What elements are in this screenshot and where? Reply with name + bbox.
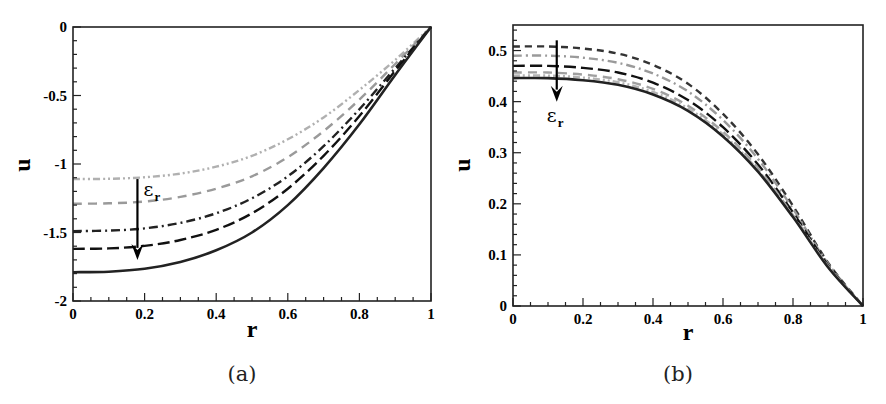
y-axis: -2-1.5-1-0.50: [43, 19, 81, 309]
line-curve-4: [73, 27, 431, 249]
y-tick-label: 0.1: [488, 247, 507, 263]
x-tick-label: 0.2: [574, 311, 593, 327]
chart-panel-b: 00.20.40.60.8100.10.20.30.40.5ru(b)εr: [449, 25, 867, 386]
x-tick-label: 1: [427, 306, 435, 322]
line-curve-1: [513, 46, 863, 306]
x-tick-label: 0.4: [644, 311, 663, 327]
line-curve-3: [73, 27, 431, 231]
x-tick-label: 0: [69, 306, 77, 322]
epsilon-arrow-annotation: εr: [547, 40, 564, 129]
y-tick-label: -2: [55, 293, 68, 309]
y-tick-label: 0: [60, 19, 68, 35]
y-tick-label: 0.5: [488, 43, 507, 59]
x-axis-title: r: [247, 316, 258, 342]
series-group: [73, 27, 431, 272]
x-tick-label: 0.8: [350, 306, 369, 322]
x-tick-label: 0.6: [714, 311, 733, 327]
y-tick-label: 0: [500, 298, 508, 314]
x-tick-label: 1: [859, 311, 867, 327]
panel-caption: (a): [228, 362, 257, 386]
x-tick-label: 0.8: [784, 311, 803, 327]
y-tick-label: 0.4: [488, 94, 507, 110]
series-group: [513, 46, 863, 306]
epsilon-r-subscript: r: [558, 115, 564, 130]
line-curve-4: [513, 72, 863, 306]
line-curve-2: [73, 27, 431, 204]
y-axis-title: u: [449, 158, 475, 171]
panel-caption: (b): [663, 362, 693, 386]
y-tick-label: 0.2: [488, 196, 507, 212]
y-tick-label: -1.5: [43, 225, 67, 241]
epsilon-r-label: ε: [547, 104, 557, 126]
x-tick-label: 0.4: [207, 306, 226, 322]
figure: 00.20.40.60.81-2-1.5-1-0.50ru(a)εr 00.20…: [0, 0, 886, 404]
x-axis-title: r: [683, 319, 694, 345]
chart-panel-a: 00.20.40.60.81-2-1.5-1-0.50ru(a)εr: [9, 19, 435, 386]
line-curve-5: [73, 27, 431, 272]
epsilon-r-label: ε: [143, 178, 153, 200]
y-tick-label: -1: [55, 156, 68, 172]
y-axis-title: u: [9, 158, 35, 171]
line-curve-6: [513, 78, 863, 306]
line-curve-2: [513, 56, 863, 306]
line-curve-3: [513, 66, 863, 306]
epsilon-r-subscript: r: [154, 189, 160, 204]
x-tick-label: 0.6: [278, 306, 297, 322]
line-curve-1: [73, 27, 431, 179]
plot-frame: [73, 27, 431, 301]
x-tick-label: 0.2: [135, 306, 154, 322]
x-tick-label: 0: [509, 311, 517, 327]
y-tick-label: 0.3: [488, 145, 507, 161]
y-tick-label: -0.5: [43, 88, 67, 104]
